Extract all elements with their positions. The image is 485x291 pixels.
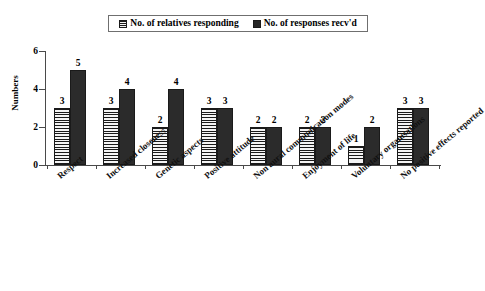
bar-group: 12	[348, 51, 380, 165]
bar-value-label: 3	[54, 97, 70, 107]
bar-value-label: 2	[266, 116, 282, 126]
legend-item-series-1: No. of responses recv'd	[253, 19, 357, 29]
bar-group: 22	[250, 51, 282, 165]
bar-value-label: 2	[152, 116, 168, 126]
bar-series-0	[201, 108, 217, 165]
bar-value-label: 4	[168, 78, 184, 88]
bar-group: 35	[54, 51, 86, 165]
x-tick-mark	[194, 165, 195, 169]
y-tick-label-6: 6	[12, 47, 38, 57]
bar-value-label: 4	[119, 78, 135, 88]
bar-series-0	[103, 108, 119, 165]
y-tick-label-4: 4	[12, 85, 38, 95]
bar-value-label: 5	[70, 59, 86, 69]
x-tick-mark	[292, 165, 293, 169]
x-tick-mark	[47, 165, 48, 169]
bar-value-label: 3	[103, 97, 119, 107]
x-tick-mark	[341, 165, 342, 169]
bar-value-label: 2	[250, 116, 266, 126]
bar-group: 33	[397, 51, 429, 165]
x-tick-mark	[96, 165, 97, 169]
y-tick-label-2: 2	[12, 123, 38, 133]
legend-label-series-0: No. of relatives responding	[130, 19, 238, 29]
bar-value-label: 3	[201, 97, 217, 107]
chart-legend: No. of relatives responding No. of respo…	[108, 15, 368, 32]
legend-item-series-0: No. of relatives responding	[119, 19, 238, 29]
x-tick-mark	[145, 165, 146, 169]
solid-square-icon	[253, 20, 261, 28]
x-tick-mark	[243, 165, 244, 169]
bar-value-label: 2	[364, 116, 380, 126]
y-tick-label-0: 0	[12, 161, 38, 171]
legend-label-series-1: No. of responses recv'd	[264, 19, 357, 29]
bar-value-label: 3	[413, 97, 429, 107]
hatched-square-icon	[119, 20, 127, 28]
bar-value-label: 3	[397, 97, 413, 107]
bar-group: 22	[299, 51, 331, 165]
bar-group: 33	[201, 51, 233, 165]
y-tick-mark-0	[39, 165, 45, 166]
bar-series-0	[54, 108, 70, 165]
y-axis-tick-labels: 6 4 2 0	[12, 0, 38, 291]
bar-series-1	[70, 70, 86, 165]
x-tick-mark	[439, 165, 440, 169]
bar-group: 34	[103, 51, 135, 165]
x-tick-mark	[390, 165, 391, 169]
bar-group: 24	[152, 51, 184, 165]
bar-value-label: 3	[217, 97, 233, 107]
bar-series-0	[250, 127, 266, 165]
